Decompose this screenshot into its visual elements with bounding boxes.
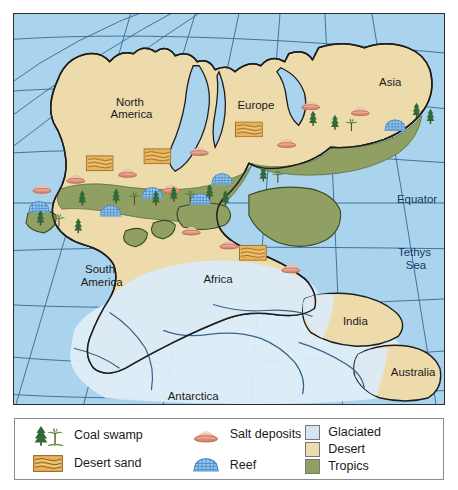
legend-label-glaciated: Glaciated xyxy=(328,425,381,439)
legend-label-salt-deposits: Salt deposits xyxy=(230,427,302,441)
map-canvas: North America Europe Asia South America … xyxy=(14,14,444,404)
legend-label-tropics: Tropics xyxy=(328,459,369,473)
page-root: North America Europe Asia South America … xyxy=(0,0,458,490)
tropics-swatch xyxy=(305,459,320,474)
map-legend: Coal swamp xyxy=(14,418,444,480)
salt-deposits-icon xyxy=(191,423,221,445)
paleoclimate-map: North America Europe Asia South America … xyxy=(13,13,445,405)
legend-column-1: Coal swamp xyxy=(31,419,143,479)
legend-label-desert-sand: Desert sand xyxy=(74,456,141,470)
legend-item-desert: Desert xyxy=(305,442,381,457)
legend-item-glaciated: Glaciated xyxy=(305,425,381,440)
legend-label-desert: Desert xyxy=(328,442,365,456)
legend-column-3: Glaciated Desert Tropics xyxy=(305,419,381,479)
desert-sand-symbol xyxy=(144,149,171,164)
desert-sand-symbol xyxy=(86,156,113,171)
reef-icon xyxy=(191,454,221,476)
legend-item-coal-swamp: Coal swamp xyxy=(31,424,143,446)
legend-label-coal-swamp: Coal swamp xyxy=(74,428,143,442)
legend-item-reef: Reef xyxy=(191,454,302,476)
glaciated-swatch xyxy=(305,425,320,440)
desert-sand-symbol xyxy=(239,245,266,260)
legend-item-salt-deposits: Salt deposits xyxy=(191,423,302,445)
legend-inner: Coal swamp xyxy=(15,419,443,479)
coal-swamp-icon xyxy=(31,424,65,446)
legend-item-tropics: Tropics xyxy=(305,459,381,474)
legend-item-desert-sand: Desert sand xyxy=(31,452,143,474)
desert-sand-symbol xyxy=(235,122,262,137)
legend-column-2: Salt deposits xyxy=(191,419,302,479)
legend-label-reef: Reef xyxy=(230,458,256,472)
desert-sand-icon xyxy=(31,452,65,474)
desert-swatch xyxy=(305,442,320,457)
